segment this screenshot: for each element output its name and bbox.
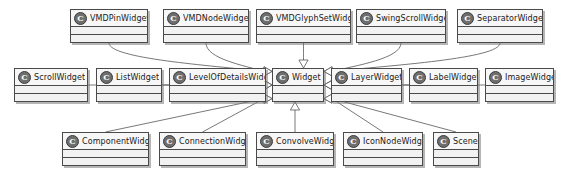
class-operations-compartment (486, 94, 553, 101)
class-attributes-compartment (63, 150, 148, 158)
class-header: CConnectionWidget (160, 133, 245, 150)
class-name-label: SeparatorWidget (477, 14, 542, 23)
class-attributes-compartment (486, 86, 553, 94)
class-header: CLevelOfDetailsWidget (170, 69, 265, 86)
class-stereotype-icon: C (335, 71, 348, 84)
class-operations-compartment (257, 35, 350, 42)
class-box-list[interactable]: CListWidget (96, 68, 162, 102)
class-name-label: LevelOfDetailsWidget (189, 73, 265, 82)
class-box-image[interactable]: CImageWidget (485, 68, 554, 102)
class-box-separator[interactable]: CSeparatorWidget (457, 9, 543, 43)
class-name-label: ComponentWidget (82, 137, 148, 146)
class-operations-compartment (160, 158, 245, 165)
class-header: CLabelWidget (410, 69, 477, 86)
class-box-iconnode[interactable]: CIconNodeWidget (343, 132, 423, 166)
class-box-levelofdetail[interactable]: CLevelOfDetailsWidget (169, 68, 266, 102)
class-stereotype-icon: C (276, 71, 289, 84)
class-stereotype-icon: C (18, 71, 31, 84)
class-operations-compartment (458, 35, 542, 42)
class-stereotype-icon: C (413, 71, 426, 84)
class-stereotype-icon: C (437, 135, 450, 148)
class-operations-compartment (97, 94, 161, 101)
class-attributes-compartment (164, 27, 248, 35)
class-header: CWidget (273, 69, 323, 86)
class-box-vmdpin[interactable]: CVMDPinWidget (70, 9, 148, 43)
generalization-edge (106, 99, 265, 132)
class-box-widget[interactable]: CWidget (272, 68, 324, 102)
class-operations-compartment (434, 158, 478, 165)
class-attributes-compartment (332, 86, 401, 94)
class-attributes-compartment (410, 86, 477, 94)
class-stereotype-icon: C (163, 135, 176, 148)
class-operations-compartment (357, 35, 445, 42)
class-name-label: ListWidget (116, 73, 159, 82)
class-name-label: Widget (292, 73, 321, 82)
class-name-label: IconNodeWidget (363, 137, 422, 146)
class-header: CConvolveWidget (257, 133, 333, 150)
class-attributes-compartment (434, 150, 478, 158)
class-name-label: VMDNodeWidget (183, 14, 248, 23)
class-attributes-compartment (71, 27, 147, 35)
class-box-label[interactable]: CLabelWidget (409, 68, 478, 102)
class-name-label: LabelWidget (429, 73, 477, 82)
uml-class-diagram: CVMDPinWidgetCVMDNodeWidgetCVMDGlyphSetW… (0, 0, 564, 176)
generalization-arrowhead (290, 102, 299, 110)
class-operations-compartment (15, 94, 87, 101)
class-box-scroll[interactable]: CScrollWidget (14, 68, 88, 102)
class-name-label: ImageWidget (505, 73, 553, 82)
class-attributes-compartment (273, 86, 323, 94)
class-box-vmdnode[interactable]: CVMDNodeWidget (163, 9, 249, 43)
class-operations-compartment (170, 94, 265, 101)
class-attributes-compartment (344, 150, 422, 158)
generalization-arrowhead (299, 60, 308, 68)
class-name-label: ScrollWidget (34, 73, 85, 82)
class-box-connection[interactable]: CConnectionWidget (159, 132, 246, 166)
generalization-edge (203, 99, 265, 132)
class-attributes-compartment (257, 150, 333, 158)
class-stereotype-icon: C (489, 71, 502, 84)
class-attributes-compartment (160, 150, 245, 158)
class-operations-compartment (164, 35, 248, 42)
class-header: CListWidget (97, 69, 161, 86)
class-name-label: VMDPinWidget (90, 14, 147, 23)
class-box-component[interactable]: CComponentWidget (62, 132, 149, 166)
class-operations-compartment (257, 158, 333, 165)
generalization-edge (332, 99, 456, 132)
class-name-label: Scene (453, 137, 478, 146)
class-box-vmdglyphset[interactable]: CVMDGlyphSetWidget (256, 9, 351, 43)
class-header: CImageWidget (486, 69, 553, 86)
class-attributes-compartment (357, 27, 445, 35)
class-box-layer[interactable]: CLayerWidget (331, 68, 402, 102)
class-stereotype-icon: C (260, 135, 273, 148)
class-operations-compartment (410, 94, 477, 101)
class-stereotype-icon: C (360, 12, 373, 25)
class-name-label: LayerWidget (351, 73, 401, 82)
class-operations-compartment (71, 35, 147, 42)
class-header: CSeparatorWidget (458, 10, 542, 27)
class-header: CVMDPinWidget (71, 10, 147, 27)
class-header: CLayerWidget (332, 69, 401, 86)
class-name-label: SwingScrollWidget (376, 14, 445, 23)
class-box-swingscroll[interactable]: CSwingScrollWidget (356, 9, 446, 43)
class-header: CVMDGlyphSetWidget (257, 10, 350, 27)
class-stereotype-icon: C (260, 12, 273, 25)
class-header: CVMDNodeWidget (164, 10, 248, 27)
class-box-convolve[interactable]: CConvolveWidget (256, 132, 334, 166)
class-stereotype-icon: C (167, 12, 180, 25)
class-stereotype-icon: C (461, 12, 474, 25)
class-attributes-compartment (257, 27, 350, 35)
class-operations-compartment (273, 94, 323, 101)
class-attributes-compartment (15, 86, 87, 94)
class-header: CSwingScrollWidget (357, 10, 445, 27)
class-name-label: ConvolveWidget (276, 137, 333, 146)
class-name-label: ConnectionWidget (179, 137, 245, 146)
class-stereotype-icon: C (347, 135, 360, 148)
class-box-scene[interactable]: CScene (433, 132, 479, 166)
class-operations-compartment (63, 158, 148, 165)
class-operations-compartment (344, 158, 422, 165)
class-stereotype-icon: C (173, 71, 186, 84)
class-attributes-compartment (170, 86, 265, 94)
class-operations-compartment (332, 94, 401, 101)
class-header: CScrollWidget (15, 69, 87, 86)
class-header: CComponentWidget (63, 133, 148, 150)
